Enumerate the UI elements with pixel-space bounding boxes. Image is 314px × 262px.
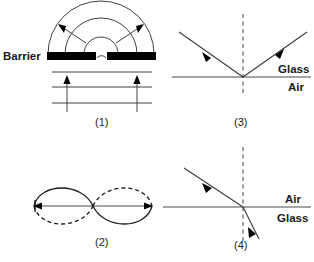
physics-figure: Barrier (1) (2)	[0, 0, 314, 262]
standing-wave-loop-right-dashed	[93, 188, 152, 206]
diffracted-arc-inner	[84, 37, 118, 54]
standing-wave-loop-left-dashed	[34, 206, 93, 224]
plane-wave-arrow-right-head	[133, 75, 140, 84]
diffraction-arrow-left-shaft	[62, 27, 86, 43]
barrier-label: Barrier	[3, 50, 41, 62]
panel-4-refraction: Air Glass (4)	[163, 147, 311, 251]
diffraction-arrow-left-head	[58, 24, 66, 33]
panel-2-standing-wave: (2)	[33, 188, 153, 248]
panel-1-caption: (1)	[95, 116, 108, 128]
standing-wave-loop-right-solid	[93, 206, 152, 224]
reflection-incident-ray	[179, 32, 243, 77]
plane-wave-arrow-left-head	[63, 75, 70, 84]
refraction-lower-medium-label: Glass	[277, 212, 308, 224]
barrier-assembly	[47, 52, 156, 60]
panel-1-diffraction: Barrier (1)	[3, 1, 156, 128]
refraction-incident-arrow-head	[202, 183, 212, 193]
reflection-upper-medium-label: Glass	[278, 63, 309, 75]
reflection-lower-medium-label: Air	[288, 81, 305, 93]
panel-2-caption: (2)	[95, 236, 108, 248]
refraction-refracted-arrow-head	[248, 227, 256, 238]
plane-wave-direction-arrows	[63, 75, 140, 112]
refraction-upper-medium-label: Air	[285, 193, 302, 205]
diffraction-arrow-right-shaft	[116, 27, 140, 43]
panel-4-caption: (4)	[234, 239, 247, 251]
standing-wave-loop-left-solid	[34, 188, 93, 206]
barrier-gap-arc	[97, 56, 106, 58]
barrier-bar-right	[107, 52, 156, 60]
barrier-bar-left	[47, 52, 96, 60]
panel-3-caption: (3)	[234, 116, 247, 128]
diffraction-arrow-right-head	[136, 24, 144, 33]
figure-canvas: Barrier (1) (2)	[0, 0, 314, 262]
panel-3-reflection: Glass Air (3)	[172, 14, 311, 128]
refraction-incident-ray	[184, 168, 243, 207]
